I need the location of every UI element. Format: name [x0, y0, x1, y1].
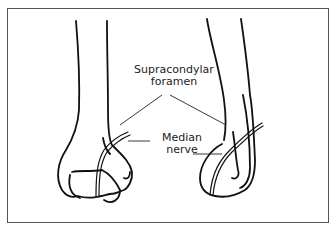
foramen-label-line2: foramen	[124, 76, 224, 88]
median-nerve-label: Median nerve	[152, 132, 212, 156]
supracondylar-foramen-label: Supracondylar foramen	[124, 64, 224, 88]
left-median-nerve	[96, 132, 130, 196]
right-humerus-illustration	[200, 19, 255, 197]
foramen-leader-left	[120, 95, 162, 125]
left-humerus-illustration	[58, 21, 132, 202]
humerus-diagram	[0, 0, 336, 228]
nerve-label-line2: nerve	[152, 144, 212, 156]
foramen-leader-right	[170, 95, 226, 125]
